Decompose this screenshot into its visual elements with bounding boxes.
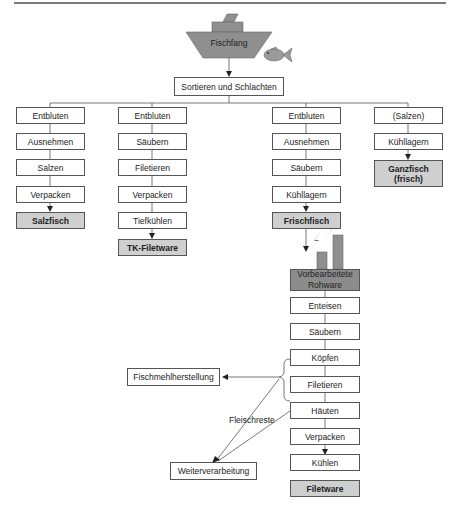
col1-step-3: Salzen: [16, 159, 85, 176]
proc-step-kuehlen: Kühlen: [290, 454, 360, 471]
factory-rohware-box: Vorbearbeitete Rohware: [290, 269, 360, 291]
proc-step-verpacken: Verpacken: [290, 428, 360, 445]
col2-step-3: Filetieren: [118, 159, 187, 176]
col3-step-4: Kühllagern: [272, 186, 341, 203]
boat-icon: [186, 14, 272, 58]
col2-step-4: Verpacken: [118, 186, 187, 203]
col4-step-1: (Salzen): [374, 107, 443, 124]
product-frischfisch: Frischfisch: [272, 212, 341, 229]
col1-step-2: Ausnehmen: [16, 133, 85, 150]
col1-step-4: Verpacken: [16, 186, 85, 203]
proc-step-haeuten: Häuten: [290, 402, 360, 419]
product-filetware: Filetware: [290, 480, 360, 497]
fish-icon: [264, 47, 292, 62]
further-processing-box: Weiterverarbeitung: [170, 462, 257, 480]
source-label: Fischfang: [207, 38, 251, 48]
fishmeal-box: Fischmehlherstellung: [127, 368, 220, 386]
proc-step-enteisen: Enteisen: [290, 297, 360, 314]
proc-step-saeubern: Säubern: [290, 323, 360, 340]
product-tk-filetware: TK-Filetware: [118, 239, 187, 256]
product-ganzfisch-line1: Ganzfisch: [388, 164, 429, 174]
col1-step-1: Entbluten: [16, 107, 85, 124]
col3-step-1: Entbluten: [272, 107, 341, 124]
col4-step-2: Kühllagern: [374, 133, 443, 150]
residue-label: Fleischreste: [229, 415, 275, 425]
sort-step-box: Sortieren und Schlachten: [174, 77, 284, 96]
product-salzfisch: Salzfisch: [16, 212, 85, 229]
product-ganzfisch: Ganzfisch (frisch): [374, 160, 443, 187]
col2-step-2: Säubern: [118, 133, 187, 150]
factory-line2: Rohware: [308, 280, 342, 291]
proc-step-filetieren: Filetieren: [290, 376, 360, 393]
col3-step-2: Ausnehmen: [272, 133, 341, 150]
col2-step-1: Entbluten: [118, 107, 187, 124]
col2-step-5: Tiefkühlen: [118, 212, 187, 229]
product-ganzfisch-line2: (frisch): [394, 174, 423, 184]
proc-step-koepfen: Köpfen: [290, 349, 360, 366]
col3-step-3: Säubern: [272, 159, 341, 176]
factory-line1: Vorbearbeitete: [297, 269, 352, 280]
